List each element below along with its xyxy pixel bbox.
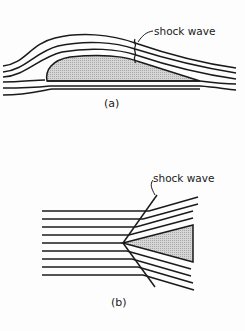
deflected-b-1 xyxy=(149,197,198,211)
shock-wave-a xyxy=(134,39,135,63)
caption-a: (a) xyxy=(104,97,119,110)
streamline-4-wake xyxy=(200,81,236,84)
streamline-6 xyxy=(3,89,200,95)
panel-b xyxy=(42,180,198,290)
shock-wave-diagram: shock wave (a) xyxy=(0,0,245,331)
streamline-4 xyxy=(3,80,45,82)
diagram-canvas: shock wave (a) xyxy=(0,0,245,331)
shock-wave-label-b: shock wave xyxy=(153,172,214,184)
caption-b: (b) xyxy=(111,296,127,309)
deflected-b-9 xyxy=(143,275,194,290)
panel-a xyxy=(3,31,236,95)
airfoil-body xyxy=(47,56,200,81)
shock-wave-label-a: shock wave xyxy=(154,25,215,37)
shock-label-leader-a xyxy=(138,31,153,42)
